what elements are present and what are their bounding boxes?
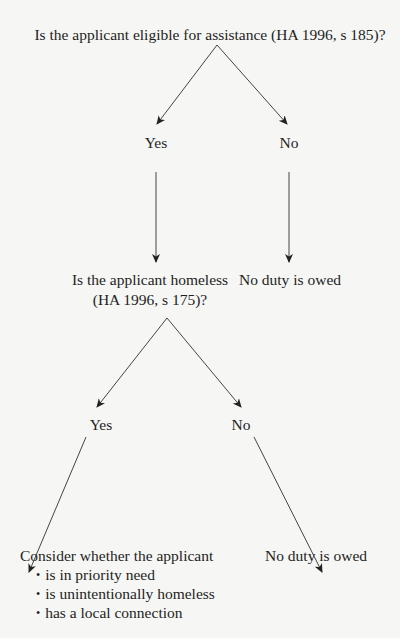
question-homeless-line2: (HA 1996, s 175)?	[72, 290, 228, 310]
outcome-consider-text: Consider whether the applicant	[20, 546, 215, 566]
criteria-list: is in priority need is unintentionally h…	[20, 566, 215, 623]
edge-homeless-yes	[97, 318, 167, 407]
criteria-item: is in priority need	[36, 566, 215, 585]
label-yes-eligible: Yes	[145, 133, 168, 153]
outcome-no-duty-not-homeless: No duty is owed	[265, 546, 367, 566]
question-eligible: Is the applicant eligible for assistance…	[34, 25, 385, 45]
label-no-homeless: No	[232, 415, 251, 435]
label-yes-homeless: Yes	[90, 415, 113, 435]
criteria-item: has a local connection	[36, 604, 215, 623]
outcome-consider: Consider whether the applicant is in pri…	[20, 546, 215, 623]
diagram-edges	[0, 0, 400, 638]
question-homeless: Is the applicant homeless (HA 1996, s 17…	[72, 270, 228, 310]
criteria-item: is unintentionally homeless	[36, 585, 215, 604]
edge-eligible-no	[217, 45, 287, 124]
edge-homeless-no	[167, 318, 241, 407]
outcome-no-duty-ineligible: No duty is owed	[239, 270, 341, 290]
label-no-eligible: No	[280, 133, 299, 153]
question-homeless-line1: Is the applicant homeless	[72, 270, 228, 290]
edge-eligible-yes	[157, 45, 217, 124]
